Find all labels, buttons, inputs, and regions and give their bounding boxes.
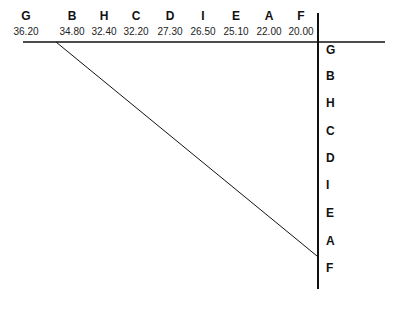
row-label-1: B <box>326 70 346 82</box>
row-label-2: H <box>326 97 346 109</box>
row-label-8: F <box>326 262 346 274</box>
column-value: 36.20 <box>6 27 46 37</box>
row-label-6: E <box>326 207 346 219</box>
row-label-7: A <box>326 235 346 247</box>
column-value: 20.00 <box>281 27 321 37</box>
row-label-0: G <box>326 44 346 56</box>
row-label-5: I <box>326 179 346 191</box>
row-label-4: D <box>326 152 346 164</box>
comparison-diagram: G 36.20 B 34.80 H 32.40 C 32.20 D 27.30 … <box>0 0 402 309</box>
column-letter: F <box>281 10 321 22</box>
row-label-3: C <box>326 125 346 137</box>
diagonal-connector-line <box>56 42 317 256</box>
column-letter: G <box>6 10 46 22</box>
